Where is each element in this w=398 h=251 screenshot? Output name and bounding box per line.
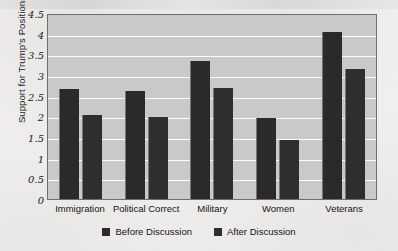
y-axis-tick-labels: 4.543.532.521.510.50 — [20, 14, 44, 200]
bars-layer — [48, 15, 376, 199]
y-axis-tick: 0 — [38, 195, 44, 206]
y-axis-tick: 3.5 — [28, 50, 44, 61]
x-axis-tick-labels: ImmigrationPolitical CorrectMilitaryWome… — [47, 203, 377, 214]
bar-group — [256, 15, 299, 199]
y-axis-tick: 4.5 — [28, 9, 44, 20]
y-axis-tick: 0.5 — [28, 174, 44, 185]
bar — [345, 69, 365, 199]
y-axis-tick: 4 — [38, 29, 44, 40]
x-axis-tick: Women — [245, 203, 311, 214]
bar-group — [125, 15, 168, 199]
x-axis-tick: Immigration — [47, 203, 113, 214]
bar — [279, 140, 299, 199]
bar — [213, 88, 233, 199]
y-axis-tick: 2 — [38, 112, 44, 123]
y-axis-tick: 2.5 — [28, 91, 44, 102]
legend-label: After Discussion — [227, 226, 296, 237]
bar-group — [190, 15, 233, 199]
legend-swatch-icon — [214, 228, 222, 236]
chart-legend: Before DiscussionAfter Discussion — [0, 226, 398, 237]
bar — [59, 89, 79, 199]
x-axis-tick: Political Correct — [113, 203, 180, 214]
bar — [148, 117, 168, 199]
legend-item: Before Discussion — [102, 226, 192, 237]
x-axis-tick: Military — [179, 203, 245, 214]
legend-swatch-icon — [102, 228, 110, 236]
bar-group — [322, 15, 365, 199]
y-axis-tick: 1 — [38, 153, 44, 164]
y-axis-tick: 3 — [38, 71, 44, 82]
y-axis-tick: 1.5 — [28, 133, 44, 144]
plot-area — [47, 14, 377, 200]
bar — [322, 32, 342, 199]
bar — [82, 115, 102, 199]
legend-label: Before Discussion — [115, 226, 192, 237]
x-axis-tick: Veterans — [311, 203, 377, 214]
scan-artifact — [0, 0, 398, 9]
bar — [125, 91, 145, 199]
bar — [190, 61, 210, 199]
legend-item: After Discussion — [214, 226, 296, 237]
bar-group — [59, 15, 102, 199]
bar-chart-figure: Support for Trump's Positions 4.543.532.… — [0, 0, 398, 251]
bar — [256, 118, 276, 199]
